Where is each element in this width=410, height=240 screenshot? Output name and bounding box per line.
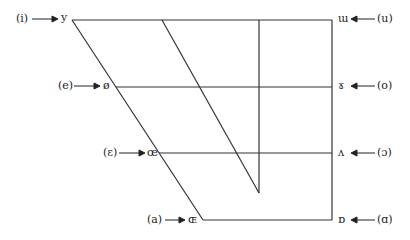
left-input-epsilon: (ɛ) [103, 147, 117, 159]
inner-diagonal [162, 20, 259, 193]
right-symbol-turned-v: ʌ [338, 147, 344, 159]
right-input-alpha: (ɑ) [377, 214, 393, 226]
right-symbol-turned-alpha: ɒ [338, 214, 345, 226]
left-input-a: (a) [147, 214, 162, 226]
right-input-o: (o) [377, 80, 392, 92]
left-diagonal [72, 20, 203, 220]
left-symbol-y: y [61, 12, 67, 24]
left-symbol-oe: œ [147, 147, 158, 159]
vowel-chart-lines [0, 0, 410, 240]
left-symbol-o-slash: ø [103, 80, 110, 92]
left-input-i: (i) [16, 13, 28, 25]
left-input-e: (e) [58, 80, 73, 92]
right-symbol-ram-horns: ɤ [338, 80, 344, 92]
right-input-u: (u) [377, 13, 393, 25]
right-symbol-turned-m: ɯ [338, 13, 348, 25]
right-input-open-o: (ɔ) [377, 147, 392, 159]
left-symbol-small-oe: ɶ [188, 214, 197, 226]
